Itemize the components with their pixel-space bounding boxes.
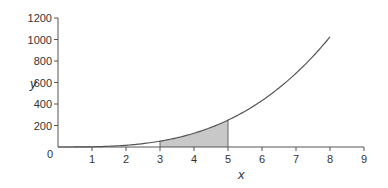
x-tick-label: 9 xyxy=(361,153,367,165)
y-tick-label: 200 xyxy=(34,120,52,132)
chart: 12345678920040060080010001200 y x 0 xyxy=(0,0,388,188)
y-tick-label: 400 xyxy=(34,98,52,110)
y-tick-label: 1200 xyxy=(28,12,52,24)
x-tick-label: 6 xyxy=(259,153,265,165)
x-tick-label: 4 xyxy=(191,153,197,165)
y-tick-label: 800 xyxy=(34,55,52,67)
curve xyxy=(58,37,330,147)
chart-svg: 12345678920040060080010001200 y x 0 xyxy=(0,0,388,188)
x-axis-label: x xyxy=(237,167,245,182)
y-tick-label: 1000 xyxy=(28,34,52,46)
x-tick-label: 2 xyxy=(123,153,129,165)
origin-label: 0 xyxy=(47,148,53,160)
x-tick-label: 3 xyxy=(157,153,163,165)
x-tick-label: 7 xyxy=(293,153,299,165)
x-tick-label: 8 xyxy=(327,153,333,165)
x-tick-label: 1 xyxy=(89,153,95,165)
x-tick-label: 5 xyxy=(225,153,231,165)
